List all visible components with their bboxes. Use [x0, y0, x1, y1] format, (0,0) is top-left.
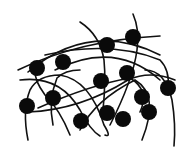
strand-1: [28, 41, 160, 72]
node-E: [19, 98, 35, 114]
polymer-network-diagram: [0, 0, 188, 158]
node-M: [115, 111, 131, 127]
strand-10: [80, 80, 150, 140]
node-F: [45, 90, 61, 106]
node-K: [73, 113, 89, 129]
node-C: [99, 37, 115, 53]
node-G: [93, 73, 109, 89]
strand-3: [80, 22, 105, 110]
node-D: [125, 29, 141, 45]
node-N: [141, 104, 157, 120]
node-A: [29, 60, 45, 76]
node-J: [134, 89, 150, 105]
node-H: [119, 65, 135, 81]
node-B: [55, 54, 71, 70]
node-L: [99, 105, 115, 121]
node-I: [160, 80, 176, 96]
